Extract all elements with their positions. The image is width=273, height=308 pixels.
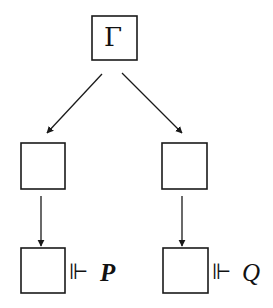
leaf-left-node [21,248,65,293]
forces-symbol-left: ⊩ [69,261,88,283]
proposition-q: Q [242,260,260,285]
proposition-p: P [100,260,115,285]
leaf-right-node [163,248,208,293]
arrow-root-to-mid-left [47,74,102,133]
arrow-root-to-mid-right [122,73,182,133]
diagram-canvas [0,0,273,308]
root-label-gamma: Γ [104,24,122,50]
forces-symbol-right: ⊩ [212,261,231,283]
mid-right-node [162,143,207,189]
mid-left-node [21,143,65,189]
